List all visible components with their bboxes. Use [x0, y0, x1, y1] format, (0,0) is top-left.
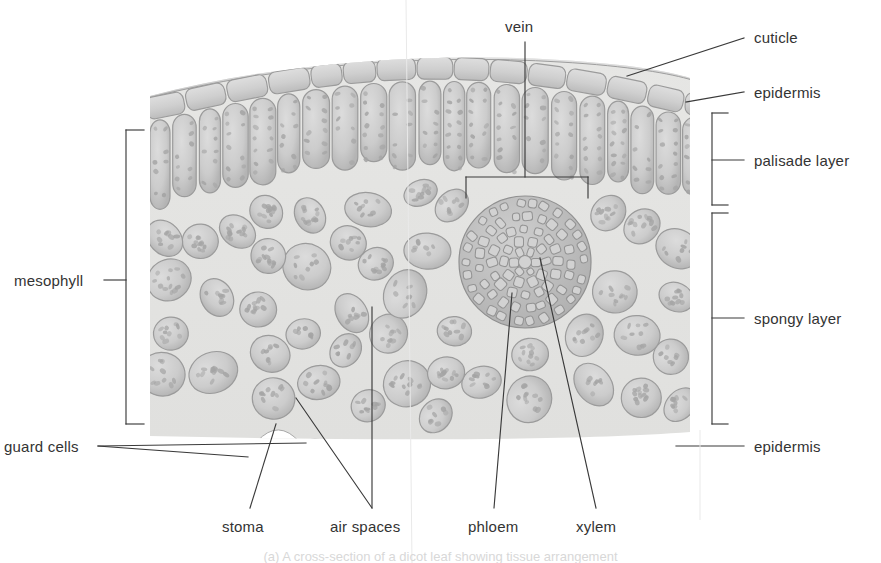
bracket-palisade-layer: [712, 113, 744, 205]
label-epidermis-bottom: epidermis: [754, 438, 821, 455]
figure-caption: (a) A cross-section of a dicot leaf show…: [0, 549, 881, 563]
figure-canvas: vein cuticle epidermis palisade layer sp…: [0, 0, 881, 563]
label-guard-cells: guard cells: [4, 438, 79, 455]
label-mesophyll: mesophyll: [14, 272, 83, 289]
label-stoma: stoma: [222, 518, 264, 535]
label-spongy-layer: spongy layer: [754, 310, 841, 327]
leader-cuticle: [627, 38, 744, 76]
label-cuticle: cuticle: [754, 29, 798, 46]
label-vein: vein: [505, 18, 533, 35]
bracket-spongy-layer: [712, 213, 744, 424]
vein-vascular-bundle: [459, 196, 591, 328]
label-epidermis-top: epidermis: [754, 84, 821, 101]
label-phloem: phloem: [468, 518, 518, 535]
leader-guard-cells: [98, 443, 306, 457]
leader-epidermis-top: [686, 92, 744, 102]
bracket-mesophyll: [104, 130, 144, 424]
leaf-cross-section-artwork: [0, 0, 881, 563]
label-xylem: xylem: [576, 518, 616, 535]
label-air-spaces: air spaces: [330, 518, 400, 535]
label-palisade-layer: palisade layer: [754, 152, 849, 169]
guard-cells: [217, 437, 340, 471]
